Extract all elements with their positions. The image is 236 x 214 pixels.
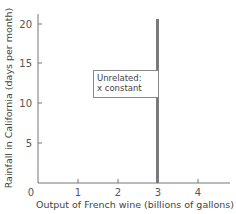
x-tick-label: 4 xyxy=(195,187,201,198)
annotation-line-1: Unrelated: xyxy=(97,73,155,83)
y-ticks: 20 15 10 5 xyxy=(19,19,42,149)
y-tick-label: 10 xyxy=(19,98,32,109)
chart: 20 15 10 5 0 1 2 3 4 Output of French wi… xyxy=(0,0,236,214)
x-tick-label: 0 xyxy=(28,187,34,198)
x-tick-label: 2 xyxy=(115,187,121,198)
x-ticks: 0 1 2 3 4 xyxy=(28,179,201,198)
y-axis-label: Rainfall in California (days per month) xyxy=(3,8,14,189)
x-tick-label: 3 xyxy=(155,187,161,198)
x-tick-label: 1 xyxy=(75,187,81,198)
y-tick-label: 20 xyxy=(19,19,32,30)
y-tick-label: 5 xyxy=(26,138,32,149)
annotation-box: Unrelated: x constant xyxy=(93,70,159,98)
annotation-line-2: x constant xyxy=(97,83,155,93)
y-tick-label: 15 xyxy=(19,58,32,69)
x-axis-label: Output of French wine (billions of gallo… xyxy=(36,199,234,210)
